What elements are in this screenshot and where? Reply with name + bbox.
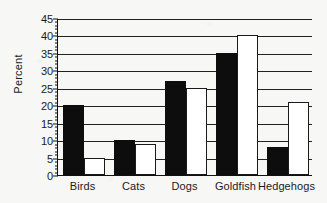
bar-dogs-hollow <box>186 88 207 175</box>
gridline <box>58 54 312 55</box>
y-tick-label: 35 <box>41 48 53 60</box>
y-tick-minor <box>55 155 58 156</box>
y-tick-minor <box>55 134 58 135</box>
y-tick-major <box>53 36 58 37</box>
bar-goldfish-hollow <box>237 35 258 175</box>
bar-dogs-filled <box>165 81 186 175</box>
y-tick-minor <box>55 64 58 65</box>
y-tick-minor <box>55 116 58 117</box>
y-tick-major <box>53 53 58 54</box>
y-tick-minor <box>55 29 58 30</box>
y-tick-label: 45 <box>41 13 53 25</box>
y-tick-minor <box>55 120 58 121</box>
y-tick-minor <box>55 67 58 68</box>
y-tick-minor <box>55 78 58 79</box>
bar-hedgehogs-filled <box>267 147 288 175</box>
y-tick-minor <box>55 74 58 75</box>
y-tick-minor <box>55 46 58 47</box>
y-tick-minor <box>55 81 58 82</box>
y-tick-major <box>53 19 58 20</box>
y-tick-minor <box>55 127 58 128</box>
y-tick-minor <box>55 148 58 149</box>
y-tick-label: 25 <box>41 83 53 95</box>
gridline <box>58 36 312 37</box>
bar-cats-filled <box>114 140 135 175</box>
y-tick-minor <box>55 60 58 61</box>
bar-hedgehogs-hollow <box>288 102 309 175</box>
y-tick-minor <box>55 32 58 33</box>
bar-goldfish-filled <box>216 53 237 175</box>
x-label-cats: Cats <box>122 180 145 192</box>
y-tick-minor <box>55 50 58 51</box>
y-tick-minor <box>55 109 58 110</box>
y-tick-label: 0 <box>47 170 53 182</box>
y-tick-minor <box>55 102 58 103</box>
y-tick-minor <box>55 165 58 166</box>
bar-birds-hollow <box>84 158 105 175</box>
y-tick-label: 10 <box>41 135 53 147</box>
x-label-goldfish: Goldfish <box>215 180 256 192</box>
x-label-dogs: Dogs <box>171 180 197 192</box>
gridline <box>58 71 312 72</box>
y-tick-minor <box>55 144 58 145</box>
y-tick-major <box>53 176 58 177</box>
y-tick-minor <box>55 43 58 44</box>
y-tick-minor <box>55 162 58 163</box>
y-tick-minor <box>55 39 58 40</box>
y-tick-label: 30 <box>41 65 53 77</box>
y-tick-minor <box>55 137 58 138</box>
y-axis-title: Percent <box>12 34 24 114</box>
y-tick-minor <box>55 169 58 170</box>
gridline <box>58 19 312 20</box>
y-tick-major <box>53 106 58 107</box>
y-tick-major <box>53 123 58 124</box>
y-tick-minor <box>55 22 58 23</box>
y-tick-minor <box>55 113 58 114</box>
y-tick-minor <box>55 57 58 58</box>
x-label-birds: Birds <box>70 180 96 192</box>
y-tick-label: 15 <box>41 118 53 130</box>
y-tick-major <box>53 71 58 72</box>
bar-cats-hollow <box>135 144 156 175</box>
y-tick-label: 20 <box>41 100 53 112</box>
y-tick-minor <box>55 25 58 26</box>
y-tick-minor <box>55 95 58 96</box>
y-tick-major <box>53 88 58 89</box>
y-tick-minor <box>55 172 58 173</box>
y-tick-minor <box>55 85 58 86</box>
x-label-hedgehogs: Hedgehogs <box>258 180 315 192</box>
y-tick-label: 5 <box>47 153 53 165</box>
bar-birds-filled <box>63 105 84 175</box>
y-tick-label: 40 <box>41 30 53 42</box>
y-tick-major <box>53 141 58 142</box>
bar-chart: Percent 051015202530354045 BirdsCatsDogs… <box>0 0 327 203</box>
y-tick-minor <box>55 130 58 131</box>
y-tick-minor <box>55 99 58 100</box>
y-tick-minor <box>55 92 58 93</box>
y-tick-major <box>53 158 58 159</box>
y-tick-minor <box>55 151 58 152</box>
plot-area: 051015202530354045 <box>57 19 312 176</box>
